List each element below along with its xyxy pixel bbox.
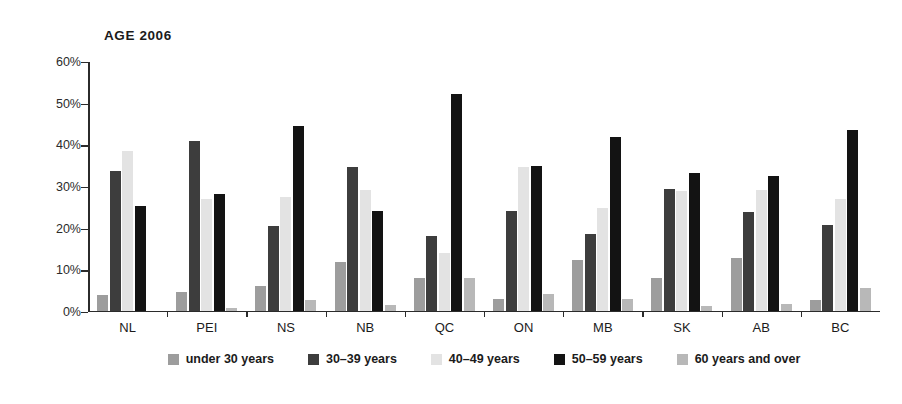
bar (531, 166, 542, 310)
bar (701, 306, 712, 311)
legend-label: under 30 years (186, 352, 274, 366)
bar (335, 262, 346, 310)
y-axis-tick-label: 10% (56, 263, 81, 277)
y-axis-tick-mark (81, 62, 88, 63)
legend-item: 30–39 years (308, 352, 397, 366)
x-axis-separator (563, 312, 564, 317)
x-axis-label: ON (514, 320, 534, 335)
bar (689, 173, 700, 310)
bar (543, 294, 554, 310)
y-axis-tick-mark (81, 312, 88, 313)
bar (110, 171, 121, 311)
bar (135, 206, 146, 311)
bar (572, 260, 583, 310)
bar (439, 253, 450, 311)
x-axis-label: NS (277, 320, 295, 335)
bar-group (642, 62, 721, 311)
chart-title: AGE 2006 (104, 28, 172, 43)
plot-area: 0%10%20%30%40%50%60% NLPEINSNBQCONMBSKAB… (88, 62, 880, 312)
x-axis-label: AB (753, 320, 770, 335)
bar (176, 292, 187, 311)
y-axis-tick-mark (81, 145, 88, 146)
y-axis-tick-mark (81, 104, 88, 105)
x-axis-label: NB (356, 320, 374, 335)
bar (781, 304, 792, 311)
legend-item: under 30 years (168, 352, 274, 366)
x-axis-label: BC (831, 320, 849, 335)
bar (426, 236, 437, 311)
bar-group (722, 62, 801, 311)
x-axis-label: PEI (196, 320, 217, 335)
bar-group (326, 62, 405, 311)
legend-swatch-icon (308, 354, 319, 365)
bar (305, 300, 316, 311)
y-axis-tick-label: 20% (56, 222, 81, 236)
bar-group (167, 62, 246, 311)
bar (676, 191, 687, 310)
x-axis-separator (642, 312, 643, 317)
bar (372, 211, 383, 311)
age-2006-bar-chart: AGE 2006 0%10%20%30%40%50%60% NLPEINSNBQ… (0, 0, 902, 404)
bar (822, 225, 833, 310)
bar (731, 258, 742, 311)
legend-swatch-icon (677, 354, 688, 365)
bar (493, 299, 504, 310)
bar (622, 299, 633, 310)
bar (664, 189, 675, 311)
bar (347, 167, 358, 310)
bar (451, 94, 462, 311)
bar (518, 167, 529, 310)
bar (293, 126, 304, 311)
bar (201, 199, 212, 310)
bar (768, 176, 779, 311)
x-axis-label: SK (673, 320, 690, 335)
bar (506, 211, 517, 310)
y-axis-tick-mark (81, 270, 88, 271)
x-axis-separator (326, 312, 327, 317)
bar (847, 130, 858, 311)
chart-legend: under 30 years30–39 years40–49 years50–5… (88, 352, 880, 366)
legend-swatch-icon (554, 354, 565, 365)
x-axis-separator (167, 312, 168, 317)
bar (743, 212, 754, 311)
x-axis-label: MB (593, 320, 613, 335)
bar (810, 300, 821, 310)
bar (189, 141, 200, 310)
legend-swatch-icon (431, 354, 442, 365)
bar-group (801, 62, 880, 311)
bar (835, 199, 846, 310)
x-axis-separator (722, 312, 723, 317)
bar (214, 194, 225, 310)
legend-item: 40–49 years (431, 352, 520, 366)
x-axis-separator (246, 312, 247, 317)
legend-label: 50–59 years (572, 352, 643, 366)
bar (464, 278, 475, 310)
x-axis-label: NL (119, 320, 136, 335)
bar-group (563, 62, 642, 311)
bar (651, 278, 662, 311)
bar (860, 288, 871, 311)
bar (756, 190, 767, 311)
x-axis-separator (801, 312, 802, 317)
bar-group (484, 62, 563, 311)
bar (597, 208, 608, 310)
bar (585, 234, 596, 311)
legend-swatch-icon (168, 354, 179, 365)
bar (414, 278, 425, 311)
bar (268, 226, 279, 311)
y-axis-tick-label: 50% (56, 97, 81, 111)
legend-label: 30–39 years (326, 352, 397, 366)
bar-group (88, 62, 167, 311)
bar-group (405, 62, 484, 311)
bar (360, 190, 371, 311)
x-axis-separator (405, 312, 406, 317)
bar (610, 137, 621, 310)
y-axis-tick-mark (81, 187, 88, 188)
y-axis-tick-label: 40% (56, 138, 81, 152)
y-axis-tick-mark (81, 229, 88, 230)
legend-item: 60 years and over (677, 352, 801, 366)
bar-group (246, 62, 325, 311)
legend-label: 60 years and over (695, 352, 801, 366)
x-axis-separator (484, 312, 485, 317)
bar (385, 305, 396, 311)
